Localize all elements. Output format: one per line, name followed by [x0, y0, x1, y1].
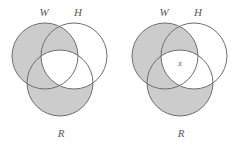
venn-diagram-figure: W H R	[0, 0, 241, 148]
set-label-h: H	[73, 6, 83, 18]
set-label-r: R	[177, 127, 185, 139]
set-label-h: H	[193, 6, 203, 18]
set-label-w: W	[159, 6, 169, 18]
venn-diagram-left: W H R	[0, 0, 120, 148]
set-label-w: W	[39, 6, 49, 18]
set-label-r: R	[57, 127, 65, 139]
element-label-x: x	[177, 59, 182, 68]
venn-svg-left: W H R	[0, 0, 120, 148]
venn-svg-right: x W H R	[120, 0, 240, 148]
venn-diagram-right: x W H R	[120, 0, 240, 148]
